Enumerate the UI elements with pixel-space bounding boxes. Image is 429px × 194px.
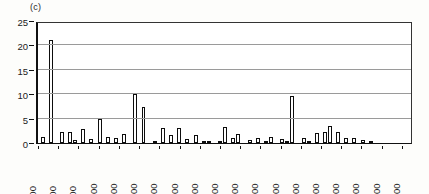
x-tick-8300: 8300 xyxy=(336,146,346,194)
x-tick-mark-3100 xyxy=(139,146,140,149)
x-tick-5200: 5200 xyxy=(215,146,225,194)
y-tick-mark-25 xyxy=(29,21,34,22)
x-tick-mark-100 xyxy=(38,146,39,149)
x-tick-2100: 2100 xyxy=(114,146,124,194)
gridline-20 xyxy=(38,44,411,45)
bar-1300 xyxy=(89,139,93,143)
panel-label: (c) xyxy=(30,2,41,12)
gridline-5 xyxy=(38,118,411,119)
bar-9550 xyxy=(280,139,284,143)
bar-2200 xyxy=(106,137,110,143)
x-tick-9200: 9200 xyxy=(377,146,387,194)
bar-5200 xyxy=(161,128,165,143)
y-tick-label-15: 15 xyxy=(17,65,28,76)
gridline-15 xyxy=(38,69,411,70)
bar-4250 xyxy=(142,107,146,143)
plot-area xyxy=(36,22,412,144)
bar-10400 xyxy=(352,138,356,143)
y-tick-label-20: 20 xyxy=(17,41,28,52)
x-tick-mark-9200 xyxy=(382,146,383,149)
x-tick-mark-6200 xyxy=(260,146,261,149)
x-tick-mark-8100 xyxy=(321,146,322,149)
x-tick-label-4000: 4000 xyxy=(148,183,159,194)
bar-10050 xyxy=(323,132,327,143)
x-tick-label-300: 300 xyxy=(47,186,58,194)
bar-6400 xyxy=(202,141,206,143)
bar-10100 xyxy=(328,126,332,143)
bar-8550 xyxy=(248,140,252,143)
gridline-10 xyxy=(38,93,411,94)
bar-100 xyxy=(41,137,45,143)
x-tick-7200: 7200 xyxy=(296,146,306,194)
bar-9850 xyxy=(307,141,311,143)
bar-8650 xyxy=(256,138,260,143)
bar-9600 xyxy=(285,141,289,143)
x-tick-mark-6400 xyxy=(281,146,282,149)
x-tick-300: 300 xyxy=(53,146,63,194)
x-tick-mark-4200 xyxy=(180,146,181,149)
x-tick-8500: 8500 xyxy=(356,146,366,194)
x-tick-mark-500 xyxy=(78,146,79,149)
x-tick-label-500: 500 xyxy=(67,186,78,194)
y-tick-label-10: 10 xyxy=(17,90,28,101)
y-tick-label-0: 0 xyxy=(23,139,28,150)
x-tick-mark-4000 xyxy=(159,146,160,149)
x-tick-mark-5200 xyxy=(220,146,221,149)
x-tick-1200: 1200 xyxy=(94,146,104,194)
x-tick-label-7200: 7200 xyxy=(290,183,301,194)
x-tick-mark-8500 xyxy=(361,146,362,149)
bar-9400 xyxy=(269,137,273,143)
x-tick-label-100: 100 xyxy=(27,186,38,194)
bar-10200 xyxy=(336,132,340,143)
x-tick-label-1200: 1200 xyxy=(88,183,99,194)
x-tick-label-9400: 9400 xyxy=(391,183,402,194)
x-tick-100: 100 xyxy=(33,146,43,194)
bar-200 xyxy=(49,40,53,143)
x-tick-5400: 5400 xyxy=(235,146,245,194)
x-tick-label-8300: 8300 xyxy=(330,183,341,194)
bar-6450 xyxy=(207,141,211,143)
bar-10600 xyxy=(369,141,373,143)
x-tick-4000: 4000 xyxy=(154,146,164,194)
bar-8150 xyxy=(223,127,227,143)
x-tick-mark-4400 xyxy=(200,146,201,149)
x-tick-mark-300 xyxy=(58,146,59,149)
bar-8250 xyxy=(231,138,235,143)
x-tick-label-5200: 5200 xyxy=(209,183,220,194)
y-tick-mark-15 xyxy=(29,70,34,71)
bar-4400 xyxy=(153,141,157,143)
bar-450 xyxy=(68,132,72,143)
x-tick-label-4200: 4200 xyxy=(169,183,180,194)
bar-1200 xyxy=(81,129,85,143)
bar-10300 xyxy=(344,138,348,143)
x-tick-mark-7200 xyxy=(301,146,302,149)
bar-10500 xyxy=(361,140,365,143)
y-axis: 0510152025 xyxy=(0,22,34,144)
x-tick-8100: 8100 xyxy=(316,146,326,194)
x-tick-500: 500 xyxy=(73,146,83,194)
y-tick-mark-0 xyxy=(29,143,34,144)
x-tick-label-2100: 2100 xyxy=(108,183,119,194)
bar-500 xyxy=(73,140,77,143)
x-axis: 1003005001200210031004000420044005200540… xyxy=(36,144,412,194)
bar-8100 xyxy=(218,141,222,143)
x-tick-mark-1200 xyxy=(99,146,100,149)
y-tick-mark-20 xyxy=(29,45,34,46)
bar-350 xyxy=(60,132,64,143)
x-tick-mark-8300 xyxy=(341,146,342,149)
bar-9950 xyxy=(315,133,319,143)
x-tick-6400: 6400 xyxy=(276,146,286,194)
x-tick-mark-2100 xyxy=(119,146,120,149)
x-tick-label-8100: 8100 xyxy=(310,183,321,194)
y-tick-mark-5 xyxy=(29,119,34,120)
x-tick-label-6400: 6400 xyxy=(270,183,281,194)
x-tick-label-4400: 4400 xyxy=(189,183,200,194)
x-tick-label-8500: 8500 xyxy=(350,183,361,194)
x-tick-label-6200: 6200 xyxy=(249,183,260,194)
bar-series xyxy=(38,23,411,143)
y-tick-label-5: 5 xyxy=(23,114,28,125)
figure-panel-c: (c) 0510152025 1003005001200210031004000… xyxy=(0,0,429,194)
x-tick-mark-5400 xyxy=(240,146,241,149)
bar-9250 xyxy=(264,141,268,143)
x-tick-3100: 3100 xyxy=(134,146,144,194)
